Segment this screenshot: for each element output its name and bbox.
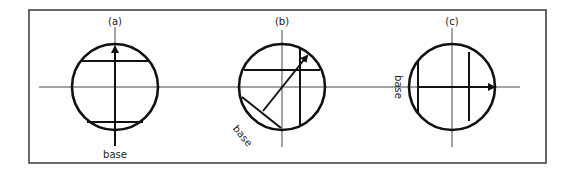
panel-c-base-label: base	[393, 75, 404, 99]
panel-a-base-label: base	[103, 149, 127, 160]
panel-a-label: (a)	[108, 16, 122, 27]
panel-c: (c) base	[393, 16, 495, 147]
panel-a: (a) base	[72, 16, 158, 160]
panel-b: (b) base	[231, 16, 325, 148]
panel-b-base-label: base	[231, 123, 255, 148]
diagram-canvas: (a) base (b) base (c) base	[0, 0, 573, 173]
panel-c-label: (c)	[445, 16, 458, 27]
panel-b-label: (b)	[275, 16, 289, 27]
